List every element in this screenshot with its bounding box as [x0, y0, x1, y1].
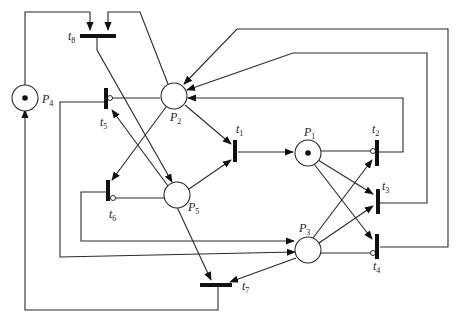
transition-t1[interactable] [233, 140, 237, 162]
inhibitor-t4 [371, 251, 376, 256]
arc-p5-t1 [189, 160, 231, 189]
inhibitor-t2 [371, 149, 376, 154]
label-t2: t2 [372, 122, 379, 138]
arc-t2-p2 [188, 98, 403, 152]
label-t4: t4 [373, 259, 380, 275]
label-t7: t7 [242, 279, 249, 295]
arc-p1-t3 [318, 160, 373, 194]
label-p1: P1 [303, 125, 315, 141]
transition-t2[interactable] [375, 140, 379, 166]
arc-p3-t3 [319, 206, 373, 243]
label-t3: t3 [382, 179, 389, 195]
place-p2[interactable] [161, 83, 187, 109]
label-p5: P5 [187, 200, 199, 216]
transition-t7[interactable] [200, 283, 232, 287]
label-t1: t1 [236, 122, 243, 138]
arc-p2-t1 [185, 105, 231, 144]
arc-p4-t8 [25, 12, 90, 86]
arc-p2-t6 [112, 107, 166, 180]
transition-t5[interactable] [104, 88, 108, 109]
petri-net-diagram: P4 P2 P5 P1 P3 t8 t5 t6 t1 t2 t3 t4 t7 [0, 0, 459, 320]
transition-t4[interactable] [375, 234, 379, 259]
label-t6: t6 [109, 207, 116, 223]
arc-p5-t7 [177, 207, 211, 280]
token-p1 [305, 150, 311, 156]
arc-p3-t7 [230, 258, 296, 282]
transition-t6[interactable] [106, 180, 110, 201]
arc-t8-p5 [97, 36, 172, 182]
label-p2: P2 [169, 110, 181, 126]
transition-t3[interactable] [376, 189, 380, 214]
arc-p2-t8 [108, 12, 168, 84]
inhibitor-t6 [111, 196, 116, 201]
transition-t8[interactable] [80, 34, 116, 38]
place-p3[interactable] [295, 237, 321, 263]
arc-p5-t5 [112, 110, 168, 186]
labels: P4 P2 P5 P1 P3 t8 t5 t6 t1 t2 t3 t4 t7 [41, 29, 389, 295]
token-p4 [22, 95, 28, 101]
label-p3: P3 [298, 221, 310, 237]
label-p4: P4 [41, 92, 53, 108]
label-t5: t5 [100, 115, 107, 131]
inhibitor-t5 [108, 96, 113, 101]
place-p5[interactable] [164, 182, 190, 208]
label-t8: t8 [68, 29, 75, 45]
